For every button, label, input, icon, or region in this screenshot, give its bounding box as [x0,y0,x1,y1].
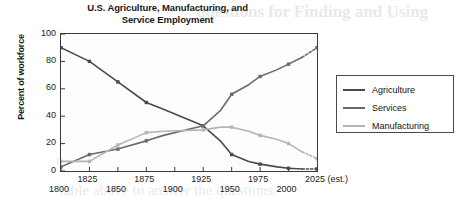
y-tick-label: 100 [30,28,56,38]
legend-item-agriculture: Agriculture [343,83,415,97]
chart-legend: Agriculture Services Manufacturing [336,75,454,133]
legend-item-services: Services [343,101,407,115]
chart-title-line-2: Service Employment [122,14,214,25]
chart-figure: questions for Finding and Using the data… [0,0,461,210]
chart-title-line-1: U.S. Agriculture, Manufacturing, and [87,2,248,13]
x-tick-label: 1825 [77,174,97,184]
x-tick-label: 1950 [220,184,240,194]
x-tick-label: 1925 [191,174,211,184]
plot-lines [61,34,317,171]
y-tick-label: 40 [30,110,56,120]
x-tick-label: 2000 [277,184,297,194]
y-tick-label: 20 [30,137,56,147]
x-tick-label: 1875 [134,174,154,184]
legend-label-manufacturing: Manufacturing [372,121,429,131]
x-tick-label: 1800 [49,184,69,194]
x-tick-label: 2025 (est.) [305,174,348,184]
y-axis-tick-labels: 020406080100 [26,33,56,172]
x-tick-label: 1900 [163,184,183,194]
chart-title: U.S. Agriculture, Manufacturing, and Ser… [60,2,275,25]
legend-swatch-agriculture [343,89,365,91]
legend-item-manufacturing: Manufacturing [343,119,429,133]
legend-swatch-manufacturing [343,125,365,127]
legend-label-agriculture: Agriculture [372,85,415,95]
plot-area [60,33,318,172]
y-tick-label: 60 [30,82,56,92]
y-tick-label: 0 [30,165,56,175]
x-tick-label: 1850 [106,184,126,194]
y-tick-label: 80 [30,55,56,65]
legend-swatch-services [343,107,365,109]
x-tick-label: 1975 [248,174,268,184]
y-axis-label: Percent of workforce [16,22,26,132]
legend-label-services: Services [372,103,407,113]
